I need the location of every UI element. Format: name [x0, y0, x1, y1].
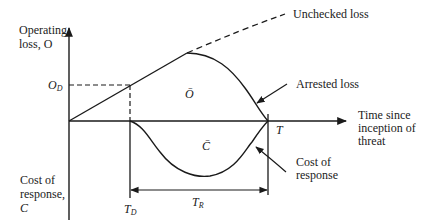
- t-label: T: [276, 123, 284, 137]
- arrested-loss-label: Arrested loss: [296, 77, 359, 91]
- y-axis-bottom-label-line2: response,: [20, 187, 65, 201]
- loss-response-diagram: Operating loss, O Cost of response, C OD…: [0, 0, 430, 222]
- od-label: OD: [48, 78, 63, 93]
- arrested-loss-curve: [187, 53, 268, 121]
- arrested-loss-pointer: [257, 84, 287, 103]
- o-bar-label: Ō: [185, 87, 194, 101]
- cost-of-response-curve: [130, 121, 268, 176]
- tr-label: TR: [192, 195, 204, 210]
- x-axis-label-line2: inception of: [358, 121, 416, 135]
- cost-of-response-pointer: [256, 147, 286, 172]
- unchecked-loss-curve: [187, 14, 285, 53]
- unchecked-loss-label: Unchecked loss: [293, 7, 369, 21]
- loss-rise-line: [69, 53, 187, 121]
- c-bar-label: C̄: [202, 139, 211, 153]
- td-label: TD: [124, 202, 137, 217]
- cost-of-response-label-line1: Cost of: [296, 155, 331, 169]
- y-axis-top-label-line1: Operating: [19, 23, 67, 37]
- x-axis-label-line1: Time since: [358, 108, 411, 122]
- y-axis-top-label-line2: loss, O: [19, 37, 53, 51]
- x-axis-label-line3: threat: [358, 134, 386, 148]
- y-axis-bottom-label-line3: C: [20, 201, 29, 215]
- y-axis-bottom-label-line1: Cost of: [20, 173, 55, 187]
- cost-of-response-label-line2: response: [296, 168, 338, 182]
